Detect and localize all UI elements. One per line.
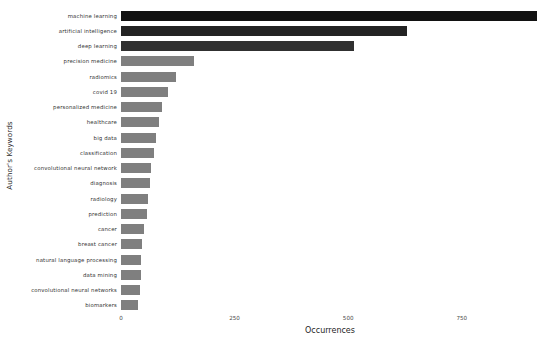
y-tick-label: biomarkers: [85, 302, 117, 308]
bar-row: convolutional neural networks: [121, 285, 539, 295]
bar: [121, 56, 194, 66]
bar: [121, 117, 159, 127]
y-axis-title: Author's Keywords: [2, 0, 16, 310]
y-tick-label: data mining: [83, 272, 117, 278]
bar-row: radiology: [121, 194, 539, 204]
bar-row: breast cancer: [121, 239, 539, 249]
bar: [121, 148, 154, 158]
y-tick-label: radiology: [91, 196, 118, 202]
bar: [121, 300, 138, 310]
bar-chart-figure: Author's Keywords machine learningartifi…: [0, 0, 542, 348]
bar-row: biomarkers: [121, 300, 539, 310]
y-tick-label: diagnosis: [90, 180, 117, 186]
y-tick-label: convolutional neural networks: [31, 287, 117, 293]
bar: [121, 194, 148, 204]
bar-row: artificial intelligence: [121, 26, 539, 36]
plot-area: machine learningartificial intelligenced…: [121, 8, 539, 313]
bar-row: covid 19: [121, 87, 539, 97]
y-tick-label: cancer: [98, 226, 117, 232]
bar-row: precision medicine: [121, 56, 539, 66]
bar: [121, 72, 176, 82]
y-tick-label: classification: [80, 150, 117, 156]
bar-row: cancer: [121, 224, 539, 234]
bar-row: convolutional neural network: [121, 163, 539, 173]
bar: [121, 178, 150, 188]
bar: [121, 224, 144, 234]
bar: [121, 26, 407, 36]
x-tick-label: 250: [229, 315, 240, 321]
y-tick-label: precision medicine: [64, 58, 117, 64]
y-tick-label: deep learning: [78, 43, 117, 49]
y-tick-label: radiomics: [89, 74, 117, 80]
x-tick-label: 500: [343, 315, 354, 321]
bar-row: radiomics: [121, 72, 539, 82]
bar-row: prediction: [121, 209, 539, 219]
bar-row: classification: [121, 148, 539, 158]
x-tick-label: 0: [119, 315, 123, 321]
bar-row: diagnosis: [121, 178, 539, 188]
y-tick-label: big data: [94, 135, 117, 141]
y-tick-label: natural language processing: [36, 257, 117, 263]
bar: [121, 270, 141, 280]
bar: [121, 163, 151, 173]
bar: [121, 11, 537, 21]
y-tick-label: covid 19: [93, 89, 117, 95]
bar: [121, 209, 147, 219]
bar-row: deep learning: [121, 41, 539, 51]
bar: [121, 133, 156, 143]
bar-row: big data: [121, 133, 539, 143]
bar: [121, 285, 140, 295]
bar-row: healthcare: [121, 117, 539, 127]
bar: [121, 87, 168, 97]
y-tick-label: machine learning: [68, 13, 117, 19]
bar-row: natural language processing: [121, 255, 539, 265]
bar: [121, 102, 162, 112]
y-tick-label: healthcare: [87, 119, 117, 125]
bar: [121, 239, 142, 249]
bar: [121, 255, 141, 265]
bar-row: machine learning: [121, 11, 539, 21]
y-tick-label: breast cancer: [78, 241, 117, 247]
y-tick-label: convolutional neural network: [34, 165, 117, 171]
bar-row: personalized medicine: [121, 102, 539, 112]
bar-row: data mining: [121, 270, 539, 280]
y-tick-label: prediction: [88, 211, 117, 217]
x-axis: 0250500750: [121, 313, 539, 327]
y-tick-label: personalized medicine: [53, 104, 117, 110]
y-tick-label: artificial intelligence: [59, 28, 117, 34]
x-tick-label: 750: [456, 315, 467, 321]
bar: [121, 41, 354, 51]
x-axis-title: Occurrences: [121, 326, 539, 335]
y-axis-title-text: Author's Keywords: [5, 121, 14, 189]
